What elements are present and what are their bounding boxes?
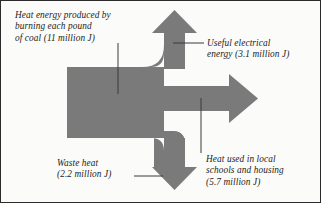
lower-bend [164,138,185,167]
sankey-energy-diagram: Heat energy produced by burning each pou… [0,0,321,203]
label-input-energy: Heat energy produced by burning each pou… [15,10,165,44]
lower-right-notch [185,111,198,151]
upper-right-notch [185,53,198,86]
upper-bend [164,41,185,67]
right-stem-connector [151,86,185,111]
label-waste-heat: Waste heat (2.2 million J) [57,158,167,181]
upper-branch-curve [141,45,164,67]
label-useful-electrical-energy: Useful electrical energy (3.1 million J) [207,38,319,61]
label-local-heat-use: Heat used in local schools and housing (… [206,154,321,188]
input-body-rect [67,67,164,138]
